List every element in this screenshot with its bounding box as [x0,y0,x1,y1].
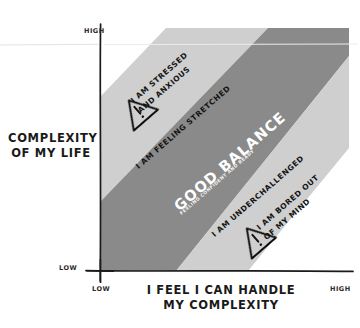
y-axis-tick-high: HIGH [84,27,105,35]
x-axis-line [86,271,353,272]
x-axis-tick-high: HIGH [330,285,351,293]
top-guide-line [0,44,98,45]
x-axis-title-line1: I FEEL I CAN HANDLE [126,283,316,298]
top-guide-line-right [104,44,358,45]
y-axis-title-line2: OF MY LIFE [8,146,94,161]
y-axis-tick-low: LOW [59,264,77,272]
band-group [101,28,349,271]
x-axis-title-line2: MY COMPLEXITY [126,298,316,313]
complexity-balance-chart: HIGH LOW COMPLEXITY OF MY LIFE LOW HIGH … [0,0,360,328]
chart-canvas [0,0,360,328]
x-axis-tick-low: LOW [92,285,110,293]
y-axis-title-line1: COMPLEXITY [8,131,94,146]
